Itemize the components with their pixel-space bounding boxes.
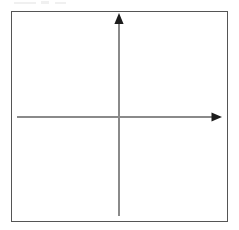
figure-canvas <box>0 0 239 230</box>
y-axis <box>114 13 123 216</box>
y-axis-arrowhead <box>114 13 123 24</box>
x-axis-arrowhead <box>212 113 223 122</box>
coordinate-axes-diagram <box>0 0 239 230</box>
